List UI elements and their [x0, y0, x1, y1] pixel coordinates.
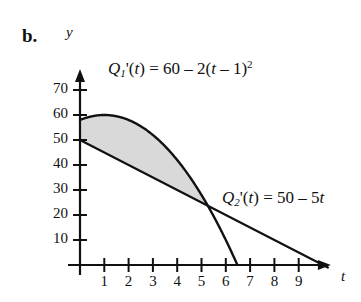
- y-tick-label: 40: [38, 155, 68, 172]
- x-tick-label: 1: [96, 273, 112, 290]
- y-tick-label: 60: [38, 105, 68, 122]
- plot-area: [0, 0, 361, 302]
- figure-container: b. y t Q1'(t) = 60 – 2(t – 1)2 Q2'(t) = …: [0, 0, 361, 302]
- x-tick-label: 7: [242, 273, 258, 290]
- y-tick-label: 20: [38, 205, 68, 222]
- x-tick-label: 8: [266, 273, 282, 290]
- y-tick-label: 30: [38, 180, 68, 197]
- y-tick-label: 10: [38, 230, 68, 247]
- y-tick-label: 50: [38, 130, 68, 147]
- x-tick-label: 9: [291, 273, 307, 290]
- x-tick-label: 5: [194, 273, 210, 290]
- axis-lines: [68, 69, 331, 275]
- x-tick-label: 4: [169, 273, 185, 290]
- x-tick-label: 6: [218, 273, 234, 290]
- x-tick-label: 3: [145, 273, 161, 290]
- y-tick-label: 70: [38, 80, 68, 97]
- x-tick-label: 2: [121, 273, 137, 290]
